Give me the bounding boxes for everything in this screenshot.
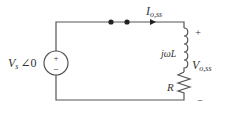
wire-bottom [56, 75, 184, 100]
node-dot-1 [108, 19, 113, 24]
inductor-icon [184, 28, 188, 72]
resistor-icon [178, 72, 190, 95]
node-dot-2 [124, 19, 129, 24]
current-arrow-icon [150, 19, 156, 25]
inductor-label: jωL [159, 48, 177, 59]
wire-left-top [56, 22, 184, 51]
source-label: Vs∠0 [8, 56, 37, 71]
current-label: Io,ss [145, 4, 162, 19]
source-plus: + [53, 53, 58, 63]
output-minus: − [197, 95, 203, 106]
output-plus: + [195, 27, 201, 38]
resistor-label: R [166, 81, 174, 93]
output-voltage-label: Vo,ss [192, 58, 212, 73]
source-minus: − [53, 64, 59, 75]
circuit-diagram: + − Vs∠0 Io,ss jωL R + Vo,ss − [0, 0, 226, 115]
